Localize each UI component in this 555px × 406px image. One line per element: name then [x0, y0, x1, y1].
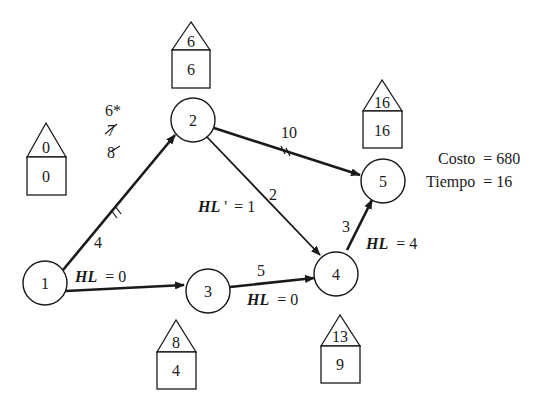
earliest-time: 4 [172, 362, 180, 379]
duration-label: 5 [257, 262, 265, 279]
duration-label-current: 6* [105, 102, 121, 119]
hl-label: HL [197, 198, 220, 215]
float-label: HL = 0 [74, 268, 126, 285]
duration-label-original: 8 [107, 144, 115, 161]
latest-time: 6 [187, 33, 195, 50]
duration-label-struck: 7 [105, 122, 117, 139]
time-summary: Tiempo = 16 [426, 173, 512, 191]
earliest-time: 6 [187, 61, 195, 78]
node-label: 1 [41, 275, 49, 292]
node-label: 5 [379, 173, 387, 190]
earliest-time: 16 [374, 122, 390, 139]
node-label: 2 [189, 112, 197, 129]
node-label: 3 [204, 283, 212, 300]
float-label: HL = 0 [246, 291, 298, 308]
cost-summary: Costo = 680 [438, 150, 520, 167]
cost-value: = 680 [483, 150, 520, 167]
earliest-time: 9 [336, 356, 344, 373]
node-2: 2 [171, 98, 215, 142]
float-label: HL ' = 1 [197, 198, 255, 215]
edge-3-4 [230, 278, 314, 287]
edge-2-4 [207, 137, 320, 255]
crash-tick-icon [111, 206, 121, 218]
svg-text:HL = 0: HL = 0 [246, 291, 298, 308]
time-box-node-3: 8 4 [157, 320, 196, 389]
time-box-node-4: 13 9 [321, 315, 360, 383]
duration-label: 4 [94, 234, 102, 251]
time-value: = 16 [483, 173, 512, 190]
latest-time: 16 [374, 94, 390, 111]
summary-block: Costo = 680 Tiempo = 16 [426, 150, 520, 191]
float-label: HL = 4 [365, 235, 417, 252]
node-4: 4 [314, 252, 358, 296]
duration-label: 2 [269, 186, 277, 203]
svg-text:HL = 4: HL = 4 [365, 235, 417, 252]
svg-text:HL = 0: HL = 0 [74, 268, 126, 285]
hl-label: HL [74, 268, 97, 285]
time-box-node-1: 0 0 [27, 123, 66, 195]
duration-label-old: 7 [107, 122, 115, 139]
node-3: 3 [186, 269, 230, 313]
earliest-time: 0 [42, 168, 50, 185]
node-1: 1 [23, 261, 67, 305]
svg-text:HL ' = 1: HL ' = 1 [197, 198, 255, 215]
hl-prime: ' [224, 198, 227, 215]
project-network-diagram: 1 2 3 4 5 0 0 6 6 16 16 8 4 [0, 0, 555, 406]
hl-label: HL [365, 235, 388, 252]
hl-value: = 0 [105, 268, 126, 285]
time-box-node-5: 16 16 [363, 80, 402, 148]
node-5: 5 [361, 159, 405, 203]
hl-label: HL [246, 291, 269, 308]
duration-label: 3 [342, 218, 350, 235]
duration-label-struck: 8 [107, 144, 120, 161]
cost-label: Costo [438, 150, 475, 167]
duration-label: 10 [281, 124, 297, 141]
node-label: 4 [332, 266, 340, 283]
time-box-node-2: 6 6 [172, 22, 210, 88]
edge-1-3 [66, 285, 184, 291]
latest-time: 0 [42, 139, 50, 156]
hl-value: = 0 [277, 291, 298, 308]
latest-time: 13 [332, 328, 348, 345]
time-label: Tiempo [426, 173, 475, 191]
edge-1-2 [63, 135, 175, 270]
hl-value: = 1 [234, 198, 255, 215]
hl-value: = 4 [396, 235, 417, 252]
latest-time: 8 [172, 334, 180, 351]
